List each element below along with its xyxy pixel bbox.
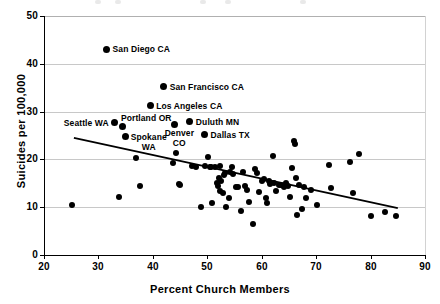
x-tick-label-60: 60 (247, 261, 277, 272)
scan-artifact-blob (225, 0, 231, 4)
data-point (293, 175, 299, 181)
scatter-chart: 2030405060708090 01020304050 San Diego C… (0, 0, 440, 304)
y-tick-10 (40, 207, 44, 208)
x-tick-20 (44, 255, 45, 259)
data-point (254, 170, 260, 176)
data-point (201, 131, 208, 138)
data-point (209, 200, 215, 206)
trend-line (0, 0, 440, 304)
y-tick-30 (40, 112, 44, 113)
data-point (235, 184, 241, 190)
data-point (326, 162, 332, 168)
data-point (218, 178, 224, 184)
x-tick-label-50: 50 (192, 261, 222, 272)
x-tick-70 (316, 255, 317, 259)
data-point (238, 208, 244, 214)
data-point (246, 199, 252, 205)
scan-artifact-blob (300, 0, 306, 4)
data-point (103, 46, 110, 53)
y-axis-line (44, 16, 45, 256)
data-point (220, 190, 226, 196)
data-point (173, 150, 179, 156)
scan-artifact-blob (115, 0, 121, 4)
data-point (177, 182, 183, 188)
data-point (160, 83, 167, 90)
data-point (301, 184, 307, 190)
data-point (264, 200, 270, 206)
data-point (270, 153, 276, 159)
data-point (356, 151, 362, 157)
data-point (171, 121, 178, 128)
data-point (229, 164, 235, 170)
annotation-label: Dallas TX (211, 130, 250, 140)
annotation-label: Los Angeles CA (156, 101, 222, 111)
y-tick-label-50: 50 (14, 10, 38, 21)
data-point (116, 194, 122, 200)
y-tick-0 (40, 255, 44, 256)
data-point (226, 195, 232, 201)
plot-right-frame (425, 16, 426, 256)
y-tick-50 (40, 16, 44, 17)
data-point (256, 189, 262, 195)
x-tick-label-30: 30 (83, 261, 113, 272)
data-point (147, 102, 154, 109)
data-point (350, 190, 356, 196)
data-point (198, 204, 204, 210)
gridline-y-50 (44, 16, 425, 17)
annotation-label: Duluth MN (196, 117, 239, 127)
gridline-y-30 (44, 112, 425, 113)
data-point (292, 141, 298, 147)
x-tick-50 (207, 255, 208, 259)
gridline-y-40 (44, 64, 425, 65)
annotation-label: SpokaneWA (131, 132, 167, 152)
y-tick-40 (40, 64, 44, 65)
y-tick-20 (40, 159, 44, 160)
data-point (119, 123, 126, 130)
y-axis-title: Suicides per 100,000 (15, 41, 27, 221)
x-tick-40 (153, 255, 154, 259)
data-point (223, 204, 229, 210)
data-point (240, 169, 246, 175)
x-tick-label-80: 80 (356, 261, 386, 272)
data-point (308, 187, 314, 193)
x-tick-30 (98, 255, 99, 259)
annotation-label: San Diego CA (113, 44, 170, 54)
data-point (170, 160, 176, 166)
data-point (328, 185, 334, 191)
data-point (137, 183, 143, 189)
data-point (347, 159, 353, 165)
data-point (287, 194, 293, 200)
data-point (382, 209, 388, 215)
data-point (299, 206, 305, 212)
scan-artifact (0, 0, 440, 6)
data-point (205, 154, 211, 160)
x-tick-60 (262, 255, 263, 259)
annotation-label: San Francisco CA (170, 82, 244, 92)
data-point (217, 163, 223, 169)
data-point (368, 213, 374, 219)
data-point (244, 187, 250, 193)
x-tick-90 (425, 255, 426, 259)
data-point (230, 171, 236, 177)
y-tick-label-0: 0 (14, 249, 38, 260)
x-axis-line (44, 255, 426, 256)
x-tick-80 (371, 255, 372, 259)
x-tick-label-70: 70 (301, 261, 331, 272)
data-point (186, 118, 193, 125)
gridline-y-20 (44, 159, 425, 160)
data-point (303, 195, 309, 201)
data-point (111, 119, 118, 126)
data-point (393, 213, 399, 219)
data-point (294, 212, 300, 218)
data-point (285, 183, 291, 189)
x-tick-label-40: 40 (138, 261, 168, 272)
data-point (250, 221, 256, 227)
annotation-label: DenverCO (165, 128, 194, 148)
x-axis-title: Percent Church Members (0, 283, 440, 295)
scan-artifact-blob (95, 0, 101, 4)
scan-artifact-blob (200, 0, 206, 4)
x-tick-label-20: 20 (29, 261, 59, 272)
data-point (314, 202, 320, 208)
data-point (133, 155, 139, 161)
data-point (289, 165, 295, 171)
